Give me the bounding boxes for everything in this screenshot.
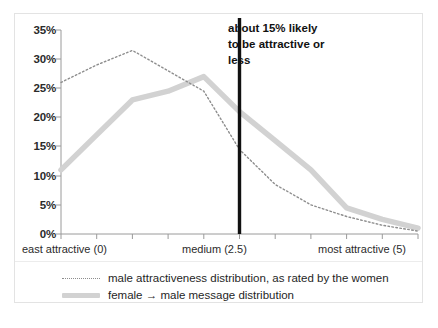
annotation-likelihood-note: about 15% likely to be attractive or les… <box>228 20 350 68</box>
legend-item-label: female → male message distribution <box>108 288 294 302</box>
x-axis-label-right: most attractive (5) <box>318 243 406 256</box>
x-axis-label-left: east attractive (0) <box>22 243 107 256</box>
annotation-line-3: less <box>228 52 350 68</box>
chart-legend: male attractiveness distribution, as rat… <box>62 269 417 303</box>
dotted-line-swatch-icon <box>62 272 100 284</box>
legend-item-label: male attractiveness distribution, as rat… <box>108 271 389 285</box>
thick-gray-line-swatch-icon <box>62 289 100 301</box>
x-axis-label-middle: medium (2.5) <box>182 243 247 256</box>
annotation-line-1: about 15% likely <box>228 20 350 36</box>
legend-item: male attractiveness distribution, as rat… <box>62 269 417 286</box>
chart-figure: 35% 30% 25% 20% 15% 10% 5% 0% <box>0 0 438 328</box>
legend-item: female → male message distribution <box>62 286 417 303</box>
annotation-line-2: to be attractive or <box>228 36 350 52</box>
